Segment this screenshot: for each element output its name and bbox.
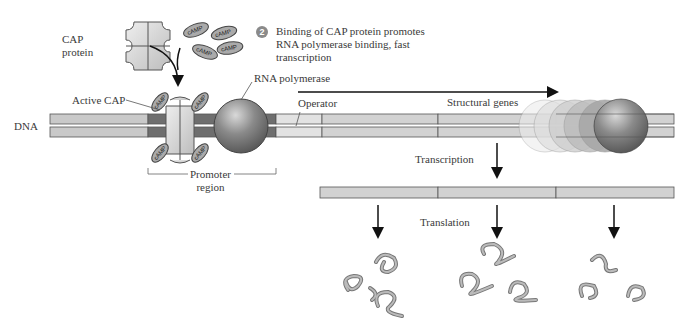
- mrna-strand: [320, 187, 674, 198]
- promoter-line1: Promoter: [190, 168, 231, 181]
- protein-products: [345, 244, 644, 316]
- step-number-badge: 2: [256, 26, 268, 38]
- cap-label-line1: CAP: [62, 33, 93, 46]
- rna-polymerase-label: RNA polymerase: [254, 72, 330, 85]
- cap-protein-label: CAP protein: [62, 33, 93, 59]
- operator-label: Operator: [298, 97, 337, 110]
- cap-protein-icon: [126, 22, 170, 70]
- dna-label: DNA: [14, 120, 38, 133]
- polymerase-movement-trail: [519, 99, 648, 153]
- rna-polymerase-icon: [214, 99, 268, 153]
- active-cap-label: Active CAP: [72, 94, 125, 107]
- caption-line3: transcription: [276, 51, 425, 64]
- translation-label: Translation: [420, 216, 470, 229]
- promoter-region-label: Promoter region: [190, 168, 231, 194]
- caption-line2: RNA polymerase binding, fast: [276, 38, 425, 51]
- transcription-label: Transcription: [415, 153, 474, 166]
- cap-label-line2: protein: [62, 46, 93, 59]
- caption-line1: Binding of CAP protein promotes: [276, 25, 425, 38]
- structural-genes-label: Structural genes: [447, 96, 518, 109]
- step-caption: Binding of CAP protein promotes RNA poly…: [276, 25, 425, 64]
- promoter-line2: region: [190, 181, 231, 194]
- camp-molecules: cAMP cAMP cAMP cAMP: [182, 20, 244, 62]
